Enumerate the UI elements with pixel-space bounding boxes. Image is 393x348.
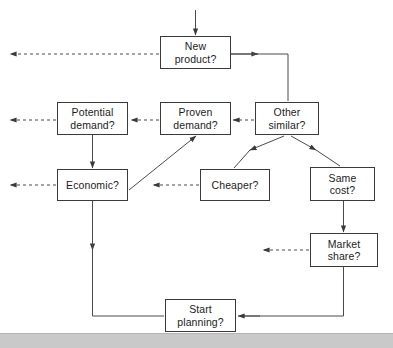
node-market-share[interactable]: Market share? <box>310 233 378 267</box>
edge-economic-to-start-planning <box>93 201 165 316</box>
node-proven-demand[interactable]: Proven demand? <box>160 102 231 135</box>
node-start-planning[interactable]: Start planning? <box>165 299 236 332</box>
edge-economic-to-proven-demand <box>129 136 196 190</box>
node-cheaper[interactable]: Cheaper? <box>200 169 270 201</box>
node-same-cost[interactable]: Same cost? <box>310 167 375 201</box>
node-economic[interactable]: Economic? <box>57 169 128 201</box>
node-potential-demand[interactable]: Potential demand? <box>57 102 128 135</box>
bottom-bar <box>0 333 393 348</box>
node-new-product[interactable]: New product? <box>160 36 231 69</box>
edge-other-similar-to-cheaper <box>250 136 284 150</box>
edge-new-product-to-other-similar <box>231 54 288 101</box>
edge-market-share-to-start-planning <box>240 267 344 316</box>
node-other-similar[interactable]: Other similar? <box>255 102 319 135</box>
edge-other-similar-to-same-cost-tail <box>316 150 340 166</box>
edge-other-similar-to-same-cost <box>291 136 316 150</box>
edge-other-similar-to-cheaper-tail <box>234 150 250 168</box>
